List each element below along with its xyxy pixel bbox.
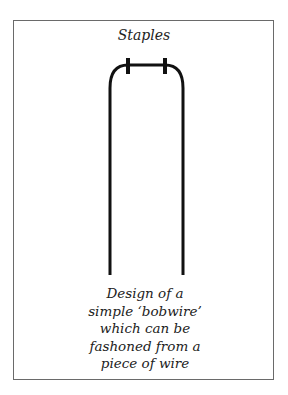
caption-line: Design of a	[80, 285, 210, 303]
staple-left-icon	[126, 58, 130, 74]
caption: Design of a simple ‘bobwire’ which can b…	[80, 285, 210, 373]
wire-shape	[110, 65, 183, 275]
caption-line: which can be	[80, 320, 210, 338]
staple-right-icon	[163, 58, 167, 74]
caption-line: fashoned from a	[80, 338, 210, 356]
caption-line: simple ‘bobwire’	[80, 303, 210, 321]
caption-line: piece of wire	[80, 355, 210, 373]
